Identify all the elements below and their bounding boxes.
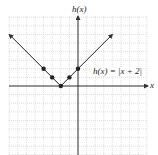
data-point [50,75,54,79]
axes [9,16,148,155]
x-axis-label: x [150,81,154,90]
equation-label: h(x) = |x + 2| [92,67,143,76]
graph-canvas [0,0,158,155]
data-point [59,84,63,88]
data-point [41,67,45,71]
y-axis-label: h(x) [72,5,87,14]
data-point [67,75,71,79]
data-point [76,67,80,71]
